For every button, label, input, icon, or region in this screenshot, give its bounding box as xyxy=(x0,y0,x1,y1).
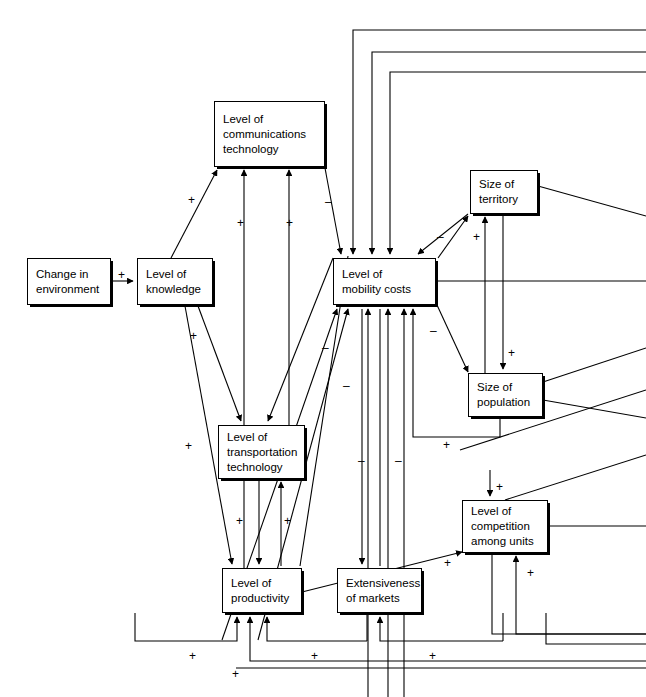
edge-feedback-left-rail-to-productivity xyxy=(135,613,237,641)
node-label: Level of transportation technology xyxy=(227,430,297,475)
sign-feedback-left: + xyxy=(189,650,196,662)
sign-mobility-neg-c: – xyxy=(358,455,365,467)
edge-competition-to-bottom xyxy=(492,553,646,634)
edge-feedback-mid-rail-to-productivity xyxy=(267,617,367,641)
node-level-of-knowledge[interactable]: Level of knowledge xyxy=(137,258,213,305)
node-label: Level of communications technology xyxy=(223,112,306,157)
node-level-of-communications-technology[interactable]: Level of communications technology xyxy=(214,101,325,167)
sign-population-to-mobility: + xyxy=(443,439,450,451)
node-label: Extensiveness of markets xyxy=(346,576,420,606)
sign-knowledge-to-transport: + xyxy=(190,330,197,342)
edge-feedback-top-3-to-mobility xyxy=(390,72,646,254)
sign-knowledge-to-comm-tech: + xyxy=(188,194,195,206)
node-level-of-transportation-technology[interactable]: Level of transportation technology xyxy=(218,425,305,479)
edge-feedback-bottom-rail-to-productivity xyxy=(250,617,646,661)
node-label: Size of territory xyxy=(479,177,518,207)
node-level-of-productivity[interactable]: Level of productivity xyxy=(222,568,302,613)
sign-feedback-mid: + xyxy=(311,650,318,662)
edge-territory-to-right-edge xyxy=(538,186,646,216)
sign-territory-to-population: + xyxy=(508,347,515,359)
sign-mobility-neg-a: – xyxy=(322,342,329,354)
sign-competition-bottom: + xyxy=(527,567,534,579)
sign-feedback-right: + xyxy=(429,650,436,662)
node-size-of-territory[interactable]: Size of territory xyxy=(470,170,538,214)
edge-mobility-to-population xyxy=(437,305,468,372)
sign-transport-to-productivity: + xyxy=(236,515,243,527)
node-extensiveness-of-markets[interactable]: Extensiveness of markets xyxy=(337,568,422,613)
sign-env-to-knowledge: + xyxy=(118,269,125,281)
node-label: Size of population xyxy=(477,380,530,410)
node-level-of-competition-among-units[interactable]: Level of competition among units xyxy=(462,500,548,553)
sign-knowledge-to-productivity: + xyxy=(185,440,192,452)
node-label: Level of mobility costs xyxy=(342,267,411,297)
sign-mobility-to-territory: – xyxy=(437,231,444,243)
node-label: Level of productivity xyxy=(231,576,289,606)
sign-comm-tech-to-mobility: – xyxy=(325,196,332,208)
sign-population-to-territory: + xyxy=(473,231,480,243)
edge-population-to-competition xyxy=(505,455,646,500)
sign-mobility-neg-b: – xyxy=(343,380,350,392)
edge-feedback-top-1-to-mobility xyxy=(353,30,646,254)
edge-feedback-far-right-rail xyxy=(546,613,646,644)
sign-mobility-to-population: – xyxy=(430,325,437,337)
causal-loop-diagram: Change in environment Level of knowledge… xyxy=(0,0,646,697)
edge-communications-to-mobility xyxy=(325,168,341,254)
sign-prod-to-transport: + xyxy=(284,515,291,527)
sign-transport-to-comm-tech: + xyxy=(286,217,293,229)
edge-competition-bottom-in xyxy=(516,556,646,634)
edge-mobility-to-transportation xyxy=(268,258,333,421)
edge-population-to-right-edge-a xyxy=(543,348,646,382)
sign-feedback-bottom: + xyxy=(232,668,239,680)
sign-mobility-neg-d: – xyxy=(395,455,402,467)
node-label: Level of competition among units xyxy=(471,504,534,549)
sign-to-competition-top: + xyxy=(496,481,503,493)
edge-knowledge-to-communications xyxy=(171,170,217,258)
sign-competition-from-productivity: + xyxy=(444,557,451,569)
edge-knowledge-to-transportation xyxy=(198,306,241,421)
sign-prod-to-comm-tech: + xyxy=(237,217,244,229)
node-size-of-population[interactable]: Size of population xyxy=(468,373,543,417)
node-level-of-mobility-costs[interactable]: Level of mobility costs xyxy=(333,258,436,305)
edge-feedback-top-2-to-mobility xyxy=(372,52,646,254)
node-label: Level of knowledge xyxy=(146,267,201,297)
edge-feedback-right-rail-to-markets xyxy=(380,617,503,641)
edge-population-to-right-edge-b xyxy=(543,400,646,418)
node-label: Change in environment xyxy=(36,267,99,297)
node-change-in-environment[interactable]: Change in environment xyxy=(27,258,111,305)
